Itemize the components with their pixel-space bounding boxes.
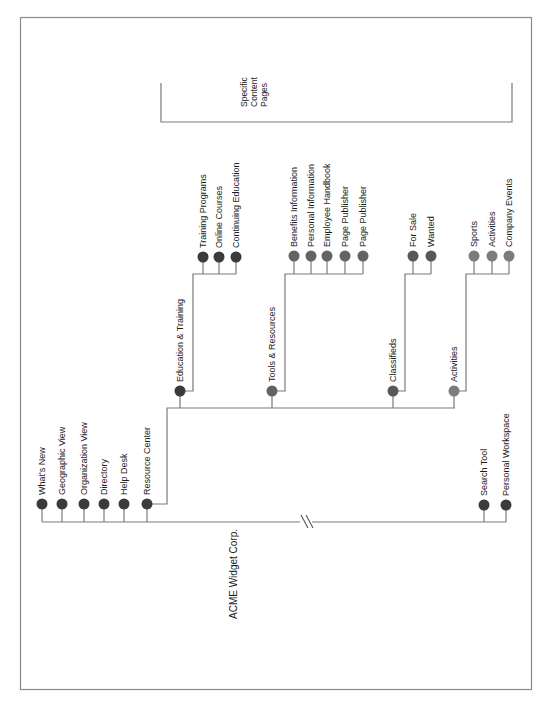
label-personal-workspace[interactable]: Personal Workspace (501, 413, 511, 496)
node-directory[interactable] (99, 499, 110, 510)
node-page-publisher-1[interactable] (340, 251, 351, 262)
top-level-stems (42, 504, 506, 522)
label-help-desk[interactable]: Help Desk (119, 453, 129, 495)
label-organization-view[interactable]: Organization View (79, 422, 89, 495)
label-company-events[interactable]: Company Events (504, 178, 514, 247)
content-pages-bracket (161, 83, 512, 122)
section-connectors (180, 274, 509, 391)
node-organization-view[interactable] (79, 499, 90, 510)
node-personal-information[interactable] (306, 251, 317, 262)
content-pages-annotation: Specific Content Pages (239, 77, 269, 107)
label-training-programs[interactable]: Training Programs (198, 174, 208, 248)
node-benefits-information[interactable] (289, 251, 300, 262)
root-label: ACME Widget Corp. (229, 529, 239, 619)
node-wanted[interactable] (426, 251, 437, 262)
node-help-desk[interactable] (119, 499, 130, 510)
label-activities-sub[interactable]: Activities (487, 211, 497, 247)
node-for-sale[interactable] (408, 251, 419, 262)
label-page-publisher-1[interactable]: Page Publisher (340, 186, 350, 247)
resource-center-connector (147, 408, 455, 504)
label-employee-handbook[interactable]: Employee Handbook (322, 163, 332, 247)
node-activities-sub[interactable] (487, 251, 498, 262)
node-company-events[interactable] (504, 251, 515, 262)
label-search-tool[interactable]: Search Tool (479, 449, 489, 496)
node-resource-center[interactable] (142, 499, 153, 510)
node-personal-workspace[interactable] (501, 500, 512, 511)
break-mark-icon (301, 515, 313, 528)
label-for-sale[interactable]: For Sale (408, 213, 418, 247)
label-personal-information[interactable]: Personal Information (306, 164, 316, 247)
label-sports[interactable]: Sports (469, 221, 479, 247)
node-training-programs[interactable] (198, 252, 209, 263)
label-continuing-education[interactable]: Continuing Education (231, 162, 241, 248)
label-benefits-information[interactable]: Benefits Information (289, 167, 299, 247)
label-activities[interactable]: Activities (449, 346, 459, 382)
label-page-publisher-2[interactable]: Page Publisher (358, 186, 368, 247)
label-whats-new[interactable]: What's New (37, 447, 47, 495)
node-activities[interactable] (449, 386, 460, 397)
node-education-training[interactable] (175, 386, 186, 397)
node-employee-handbook[interactable] (322, 251, 333, 262)
node-search-tool[interactable] (479, 500, 490, 511)
child-stems (203, 256, 509, 274)
node-classifieds[interactable] (388, 386, 399, 397)
node-continuing-education[interactable] (231, 252, 242, 263)
node-whats-new[interactable] (37, 499, 48, 510)
label-directory[interactable]: Directory (99, 459, 109, 495)
tools-nodes (267, 251, 369, 397)
label-classifieds[interactable]: Classifieds (388, 338, 398, 382)
label-education-training[interactable]: Education & Training (175, 299, 185, 382)
section-stems (180, 391, 454, 408)
node-geographic-view[interactable] (57, 499, 68, 510)
node-online-courses[interactable] (214, 252, 225, 263)
label-online-courses[interactable]: Online Courses (214, 186, 224, 248)
label-wanted[interactable]: Wanted (426, 216, 436, 247)
label-geographic-view[interactable]: Geographic View (57, 427, 67, 495)
top-level-nodes (37, 499, 512, 511)
node-tools-resources[interactable] (267, 386, 278, 397)
node-sports[interactable] (469, 251, 480, 262)
node-page-publisher-2[interactable] (358, 251, 369, 262)
label-resource-center[interactable]: Resource Center (142, 427, 152, 495)
label-tools-resources[interactable]: Tools & Resources (267, 307, 277, 382)
